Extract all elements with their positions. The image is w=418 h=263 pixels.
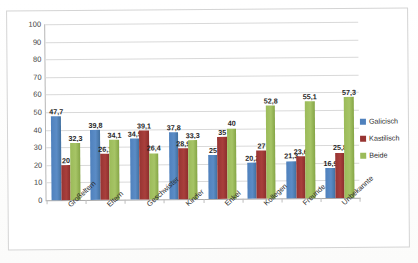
y-axis-tick-label: 70	[16, 73, 42, 81]
legend-item-beide[interactable]: Beide	[360, 146, 410, 163]
legend-item-kastilisch[interactable]: Kastilisch	[360, 129, 410, 146]
bar-value-label: 26,4	[147, 145, 161, 152]
bar-group: 34,539,126,4	[123, 23, 164, 199]
bar-value-label: 39,8	[88, 122, 102, 129]
bar-value-label: 20	[62, 157, 70, 164]
bar-value-label: 52,8	[264, 97, 278, 104]
bar-groups: 47,72032,339,826,134,134,539,126,437,828…	[45, 22, 359, 200]
legend-label: Galicisch	[369, 117, 398, 124]
bar-beide-unbekannte[interactable]: 57,3	[344, 97, 354, 198]
bar-galicisch-geschwister[interactable]: 34,5	[130, 139, 140, 200]
bar-kastilisch-kinder[interactable]: 28,9	[178, 148, 188, 199]
bar-kastilisch-kollegen[interactable]: 27	[257, 151, 267, 199]
bar-beide-kollegen[interactable]: 52,8	[266, 106, 276, 199]
bar-galicisch-kollegen[interactable]: 20,2	[247, 163, 257, 199]
y-axis-tick-label: 40	[16, 126, 42, 134]
bar-value-label: 37,8	[167, 124, 181, 131]
bar-value-label: 35	[218, 129, 226, 136]
legend-swatch-icon	[360, 118, 366, 124]
bar-value-label: 57,3	[342, 89, 356, 96]
y-axis-tick-label: 50	[16, 109, 42, 117]
bar-kastilisch-eltern[interactable]: 26,1	[100, 154, 110, 200]
y-axis-tick-label: 60	[16, 91, 42, 99]
legend-swatch-icon	[360, 135, 366, 141]
bar-beide-freunde[interactable]: 55,1	[305, 101, 315, 198]
plot-area: 47,72032,339,826,134,134,539,126,437,828…	[45, 22, 359, 200]
chart-plot-wrapper: 1009080706050403020100 47,72032,339,826,…	[7, 8, 411, 251]
bar-kastilisch-geschwister[interactable]: 39,1	[139, 131, 149, 200]
y-axis-tick-label: 80	[15, 56, 41, 64]
bar-value-label: 55,1	[303, 93, 317, 100]
y-axis-tick-labels: 1009080706050403020100	[15, 11, 43, 251]
bar-galicisch-großeltern[interactable]: 47,7	[51, 116, 61, 200]
bar-galicisch-enkel[interactable]: 25	[208, 155, 218, 199]
bar-group: 39,826,134,1	[84, 24, 125, 200]
y-axis-tick-label: 100	[15, 21, 41, 29]
bar-value-label: 40	[228, 120, 236, 127]
y-axis-tick-label: 0	[17, 197, 43, 205]
bar-value-label: 47,7	[49, 108, 63, 115]
chart-frame: 1009080706050403020100 47,72032,339,826,…	[6, 7, 410, 250]
bar-group: 47,72032,3	[45, 24, 86, 200]
bar-value-label: 33,3	[186, 132, 200, 139]
x-axis-category-labels: GroßelternElternGeschwisterKinderEnkelKo…	[47, 201, 360, 251]
bar-group: 37,828,933,3	[163, 23, 204, 199]
bar-kastilisch-unbekannte[interactable]: 25,8	[335, 153, 345, 198]
bar-group: 20,22752,8	[241, 22, 282, 198]
bar-galicisch-freunde[interactable]: 21,3	[286, 161, 296, 199]
bar-value-label: 27	[257, 143, 265, 150]
bar-galicisch-unbekannte[interactable]: 16,9	[326, 168, 336, 198]
bar-value-label: 32,3	[68, 135, 82, 142]
bar-value-label: 34,1	[107, 131, 121, 138]
chart-legend: GalicischKastilischBeide	[360, 112, 410, 163]
bar-group: 21,323,655,1	[280, 22, 321, 198]
x-axis-tick-mark	[360, 198, 361, 202]
bar-kastilisch-freunde[interactable]: 23,6	[296, 157, 306, 199]
y-axis-tick-label: 90	[15, 38, 41, 46]
y-axis-tick-label: 30	[16, 144, 42, 152]
bar-kastilisch-großeltern[interactable]: 20	[61, 165, 71, 200]
legend-label: Beide	[369, 151, 387, 158]
bar-group: 16,925,857,3	[319, 22, 360, 198]
y-axis-tick-label: 10	[16, 179, 42, 187]
bar-kastilisch-enkel[interactable]: 35	[217, 137, 227, 199]
legend-label: Kastilisch	[369, 134, 399, 141]
bar-value-label: 25	[209, 147, 217, 154]
y-axis-tick-label: 20	[16, 161, 42, 169]
bar-value-label: 39,1	[137, 122, 151, 129]
bar-group: 253540	[202, 23, 243, 199]
legend-item-galicisch[interactable]: Galicisch	[360, 112, 410, 129]
legend-swatch-icon	[360, 152, 366, 158]
